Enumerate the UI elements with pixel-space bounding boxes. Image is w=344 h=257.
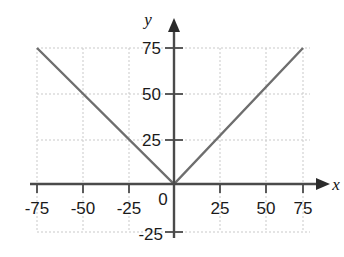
x-tick-labels: -75 -50 -25 0 25 50 75 (25, 190, 313, 218)
y-tick-labels: 75 50 25 -25 (138, 39, 163, 244)
x-tick-label-75: 75 (294, 199, 313, 218)
x-tick-label--25: -25 (117, 199, 142, 218)
x-axis (30, 178, 330, 193)
x-axis-arrow-icon (316, 178, 330, 190)
x-tick-label-origin: 0 (158, 190, 167, 209)
y-tick-label-75: 75 (142, 39, 161, 58)
x-tick-label--50: -50 (71, 199, 96, 218)
x-axis-label: x (331, 175, 340, 194)
y-tick-label-50: 50 (142, 85, 161, 104)
coordinate-plane-svg: 75 50 25 -25 -75 -50 -25 0 25 50 75 y x (0, 0, 344, 257)
x-tick-label--75: -75 (25, 199, 50, 218)
data-series-absolute-value (37, 48, 303, 184)
graph-figure: 75 50 25 -25 -75 -50 -25 0 25 50 75 y x (0, 0, 344, 257)
x-tick-label-50: 50 (257, 199, 276, 218)
y-axis-label: y (142, 10, 152, 29)
x-tick-label-25: 25 (211, 199, 230, 218)
y-tick-label-25: 25 (142, 131, 161, 150)
y-axis-arrow-icon (168, 18, 180, 32)
y-tick-label--25: -25 (138, 225, 163, 244)
